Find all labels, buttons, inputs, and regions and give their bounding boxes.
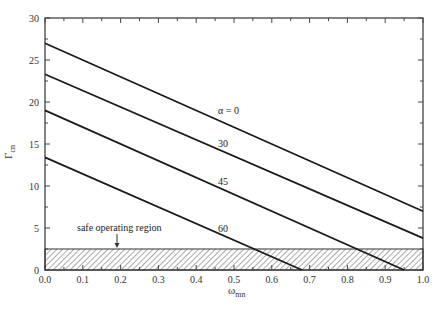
y-axis-label: Γcn <box>2 145 17 159</box>
curve-label-45: 45 <box>218 176 228 187</box>
y-tick-label: 15 <box>29 139 39 150</box>
x-tick-label: 0.8 <box>341 274 354 285</box>
curve-label-alpha-0: α = 0 <box>218 105 239 116</box>
x-tick-label: 0.2 <box>114 274 127 285</box>
x-tick-label: 0.9 <box>379 274 392 285</box>
y-tick-label: 25 <box>29 55 39 66</box>
x-tick-label: 0.0 <box>39 274 52 285</box>
curve-line <box>45 74 423 238</box>
x-tick-label: 0.1 <box>77 274 90 285</box>
curve-label-30: 30 <box>218 138 228 149</box>
x-tick-label: 1.0 <box>417 274 430 285</box>
chart: 0.00.10.20.30.40.50.60.70.80.91.00510152… <box>0 0 441 309</box>
curve-line <box>45 110 404 270</box>
y-tick-label: 5 <box>34 223 39 234</box>
x-tick-label: 0.4 <box>190 274 203 285</box>
x-tick-label: 0.6 <box>266 274 279 285</box>
curve-line <box>45 43 423 211</box>
y-tick-label: 30 <box>29 13 39 24</box>
safe-region-arrow <box>115 234 120 248</box>
curves <box>45 43 423 270</box>
safe-region-label: safe operating region <box>77 222 161 233</box>
x-tick-label: 0.7 <box>303 274 316 285</box>
y-tick-label: 20 <box>29 97 39 108</box>
x-tick-label: 0.3 <box>152 274 165 285</box>
y-tick-label: 10 <box>29 181 39 192</box>
y-tick-label: 0 <box>34 265 39 276</box>
curve-label-60: 60 <box>218 223 228 234</box>
figure-caption <box>30 297 430 307</box>
axis-tick-labels: 0.00.10.20.30.40.50.60.70.80.91.00510152… <box>29 13 429 285</box>
